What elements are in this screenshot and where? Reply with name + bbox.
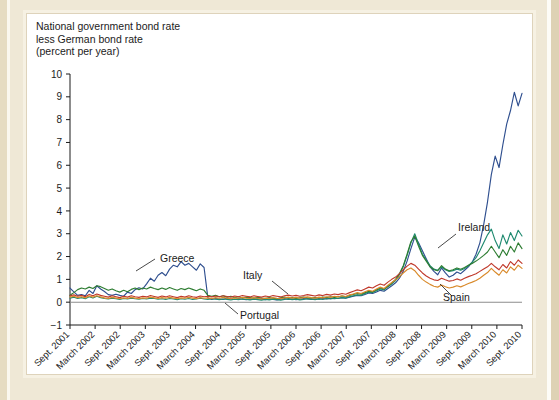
- y-tick-label: 7: [56, 137, 62, 148]
- y-tick-label: 6: [56, 160, 62, 171]
- annotation-leader-portugal: [225, 303, 238, 314]
- series-annotation-greece: Greece: [160, 252, 195, 264]
- y-tick-label: 10: [51, 69, 63, 80]
- y-tick-label: 3: [56, 228, 62, 239]
- y-tick-label: 9: [56, 91, 62, 102]
- annotation-leader-italy: [272, 281, 288, 294]
- series-annotation-spain: Spain: [443, 291, 470, 303]
- y-tick-label: 5: [56, 183, 62, 194]
- y-tick-label: 2: [56, 251, 62, 262]
- annotation-leader-ireland: [438, 234, 456, 248]
- axis-frame: [70, 74, 522, 325]
- annotation-leader-greece: [136, 259, 155, 271]
- series-annotation-portugal: Portugal: [240, 309, 279, 321]
- y-tick-label: 0: [56, 297, 62, 308]
- y-tick-label: 1: [56, 274, 62, 285]
- line-chart: −1012345678910Sept. 2001March 2002Sept. …: [0, 0, 559, 400]
- y-tick-label: −1: [51, 320, 63, 331]
- figure-container: National government bond rate less Germa…: [0, 0, 559, 400]
- series-annotation-italy: Italy: [243, 269, 263, 281]
- series-line-portugal: [70, 236, 522, 299]
- y-tick-label: 4: [56, 206, 62, 217]
- series-annotation-ireland: Ireland: [458, 221, 490, 233]
- y-tick-label: 8: [56, 114, 62, 125]
